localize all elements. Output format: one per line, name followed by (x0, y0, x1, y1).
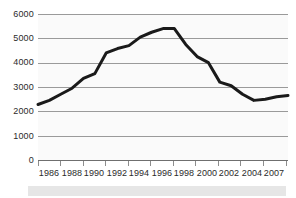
x-tick-label: 2004 (241, 168, 263, 178)
x-tick-label: 1992 (106, 168, 128, 178)
x-axis-tick (286, 161, 287, 166)
series-svg (38, 14, 288, 160)
x-axis-line (38, 160, 288, 161)
x-tick-label: 1996 (151, 168, 173, 178)
footer-band (28, 186, 286, 196)
x-axis-tick (150, 161, 151, 166)
x-tick-label: 2000 (196, 168, 218, 178)
y-tick-label: 2000 (0, 106, 34, 116)
y-axis: 6000 5000 4000 3000 2000 1000 0 (0, 0, 34, 198)
x-axis-tick (195, 161, 196, 166)
x-axis-tick (263, 161, 264, 166)
y-tick-label: 5000 (0, 33, 34, 43)
plot-area (38, 14, 288, 160)
x-axis-tick (60, 161, 61, 166)
x-axis-tick (83, 161, 84, 166)
y-tick-label: 3000 (0, 82, 34, 92)
y-tick-label: 6000 (0, 9, 34, 19)
x-axis-tick (38, 161, 39, 166)
x-tick-label: 1994 (128, 168, 150, 178)
x-axis-tick (173, 161, 174, 166)
x-tick-label: 2007 (263, 168, 285, 178)
x-tick-label: 1990 (83, 168, 105, 178)
x-axis-tick (240, 161, 241, 166)
x-axis-tick (218, 161, 219, 166)
line-chart-figure: 6000 5000 4000 3000 2000 1000 0 1986 198… (0, 0, 296, 198)
x-axis-tick (128, 161, 129, 166)
x-tick-label: 2002 (218, 168, 240, 178)
series-line (38, 29, 288, 105)
x-tick-label: 1998 (173, 168, 195, 178)
y-tick-label: 1000 (0, 131, 34, 141)
x-tick-label: 1988 (61, 168, 83, 178)
y-tick-label: 0 (0, 155, 34, 165)
x-tick-label: 1986 (38, 168, 60, 178)
x-axis-tick (105, 161, 106, 166)
y-tick-label: 4000 (0, 57, 34, 67)
